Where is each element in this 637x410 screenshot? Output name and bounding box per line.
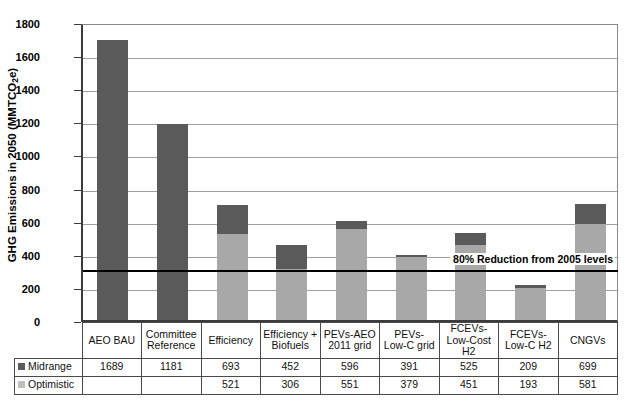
table-column-header: AEO BAU xyxy=(82,323,142,359)
table-column-header-line: Reference xyxy=(142,340,201,352)
table-column-header-line: FCEVs- xyxy=(440,323,499,335)
table-column-header-line: 2011 grid xyxy=(321,340,380,352)
table-row: Optimistic521306551379451193581 xyxy=(15,376,618,394)
bar-segment-optimistic xyxy=(276,269,307,320)
table-column-header: PEVs-AEO2011 grid xyxy=(320,323,380,359)
table-cell: 521 xyxy=(201,376,261,394)
bar-segment-midrange xyxy=(396,255,427,257)
table-cell: 452 xyxy=(261,358,321,376)
table-column-header: Efficiency xyxy=(201,323,261,359)
y-tick-label: 1000 xyxy=(0,150,40,162)
bar-segment-midrange xyxy=(575,204,606,224)
table-row: Midrange16891181693452596391525209699 xyxy=(15,358,618,376)
bar-segment-optimistic xyxy=(515,288,546,320)
legend-row-header: Midrange xyxy=(15,358,83,376)
table-column-header-line: Low-C grid xyxy=(380,340,439,352)
table-cell: 693 xyxy=(201,358,261,376)
data-table-header-row: AEO BAUCommitteeReferenceEfficiencyEffic… xyxy=(15,323,618,359)
bar-segment-optimistic xyxy=(396,257,427,320)
plot-area: 80% Reduction from 2005 levels xyxy=(81,24,618,322)
y-tick-label: 1400 xyxy=(0,84,40,96)
y-tick-mark xyxy=(74,123,81,124)
bar-segment-midrange xyxy=(97,40,128,320)
table-cell: 1689 xyxy=(82,358,142,376)
y-tick-label: 600 xyxy=(0,217,40,229)
bar-group xyxy=(97,40,128,320)
bar-segment-optimistic xyxy=(217,234,248,320)
table-cell: 306 xyxy=(261,376,321,394)
table-column-header: Efficiency +Biofuels xyxy=(261,323,321,359)
table-column-header-line: CNGVs xyxy=(559,335,618,347)
target-reduction-label: 80% Reduction from 2005 levels xyxy=(450,253,615,265)
y-tick-label: 200 xyxy=(0,283,40,295)
table-cell: 596 xyxy=(320,358,380,376)
table-cell: 391 xyxy=(380,358,440,376)
y-tick-mark xyxy=(74,256,81,257)
data-table-body: Midrange16891181693452596391525209699Opt… xyxy=(15,358,618,394)
y-tick-label: 1600 xyxy=(0,51,40,63)
table-column-header-line: Low-Cost H2 xyxy=(440,335,499,358)
bar-segment-midrange xyxy=(455,233,486,245)
gridline xyxy=(83,91,617,92)
table-cell xyxy=(82,376,142,394)
ghg-emissions-chart-figure: GHG Emissions in 2050 (MMTCO2e) 02004006… xyxy=(0,0,637,410)
legend-label: Midrange xyxy=(28,360,72,372)
table-cell: 379 xyxy=(380,376,440,394)
y-tick-label: 1800 xyxy=(0,18,40,30)
table-cell xyxy=(142,376,202,394)
target-reduction-line xyxy=(83,270,618,272)
y-tick-label: 800 xyxy=(0,184,40,196)
y-tick-mark xyxy=(74,90,81,91)
bar-group xyxy=(455,233,486,320)
table-column-header-line: Low-C H2 xyxy=(499,340,558,352)
table-column-header: FCEVs-Low-Cost H2 xyxy=(439,323,499,359)
bar-segment-midrange xyxy=(336,221,367,228)
bar-segment-midrange xyxy=(515,285,546,288)
table-cell: 193 xyxy=(499,376,559,394)
bar-group xyxy=(515,285,546,320)
table-cell: 451 xyxy=(439,376,499,394)
table-column-header-line: AEO BAU xyxy=(83,335,142,347)
table-cell: 699 xyxy=(558,358,618,376)
table-cell: 581 xyxy=(558,376,618,394)
bar-segment-midrange xyxy=(217,205,248,233)
y-tick-label: 400 xyxy=(0,250,40,262)
table-column-header: CNGVs xyxy=(558,323,618,359)
table-column-header-line: Efficiency xyxy=(202,335,261,347)
table-column-header: PEVs-Low-C grid xyxy=(380,323,440,359)
y-tick-mark xyxy=(74,289,81,290)
y-tick-mark xyxy=(74,223,81,224)
table-column-header: CommitteeReference xyxy=(142,323,202,359)
data-table: AEO BAUCommitteeReferenceEfficiencyEffic… xyxy=(14,322,618,395)
y-tick-mark xyxy=(74,190,81,191)
y-tick-mark xyxy=(74,156,81,157)
bar-group xyxy=(157,124,188,320)
table-cell: 209 xyxy=(499,358,559,376)
legend-swatch-icon xyxy=(18,363,25,370)
bar-segment-midrange xyxy=(276,245,307,269)
bar-segment-optimistic xyxy=(336,229,367,320)
legend-swatch-icon xyxy=(18,381,25,388)
y-tick-mark xyxy=(74,57,81,58)
y-tick-mark xyxy=(74,24,81,25)
legend-label: Optimistic xyxy=(28,378,74,390)
bar-group xyxy=(396,255,427,320)
table-column-header: FCEVs-Low-C H2 xyxy=(499,323,559,359)
table-cell: 1181 xyxy=(142,358,202,376)
table-cell: 551 xyxy=(320,376,380,394)
table-cell: 525 xyxy=(439,358,499,376)
table-corner-cell xyxy=(15,323,83,359)
table-column-header-line: Biofuels xyxy=(261,340,320,352)
legend-row-header: Optimistic xyxy=(15,376,83,394)
bar-group xyxy=(276,245,307,320)
bar-segment-midrange xyxy=(157,124,188,320)
y-tick-label: 1200 xyxy=(0,117,40,129)
gridline xyxy=(83,58,617,59)
bar-group xyxy=(217,205,248,320)
data-table-head: AEO BAUCommitteeReferenceEfficiencyEffic… xyxy=(15,323,618,359)
